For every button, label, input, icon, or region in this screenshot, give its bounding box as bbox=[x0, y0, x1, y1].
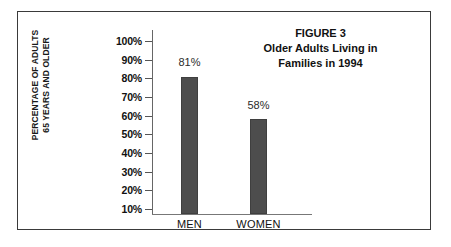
bar-men bbox=[181, 77, 198, 215]
y-tick-label-30: 30% bbox=[96, 166, 142, 178]
bar-women bbox=[250, 119, 267, 214]
category-label-men: MEN bbox=[155, 218, 225, 230]
y-tick-mark-90 bbox=[145, 60, 152, 61]
y-tick-mark-100 bbox=[145, 41, 152, 42]
figure-root: PERCENTAGE OF ADULTS 65 YEARS AND OLDER … bbox=[0, 0, 451, 247]
y-tick-mark-10 bbox=[145, 209, 152, 210]
y-tick-label-50: 50% bbox=[96, 128, 142, 140]
y-tick-label-60: 60% bbox=[96, 110, 142, 122]
y-tick-mark-30 bbox=[145, 172, 152, 173]
y-tick-mark-40 bbox=[145, 153, 152, 154]
y-axis-title-line-2: 65 YEARS AND OLDER bbox=[41, 10, 52, 160]
figure-title: FIGURE 3 Older Adults Living in Families… bbox=[223, 26, 418, 71]
y-tick-mark-20 bbox=[145, 190, 152, 191]
y-tick-mark-80 bbox=[145, 78, 152, 79]
y-tick-mark-70 bbox=[145, 97, 152, 98]
bar-value-men: 81% bbox=[166, 56, 214, 68]
chart-plot-area: PERCENTAGE OF ADULTS 65 YEARS AND OLDER … bbox=[18, 12, 432, 231]
y-tick-label-90: 90% bbox=[96, 54, 142, 66]
y-tick-mark-50 bbox=[145, 134, 152, 135]
y-axis-line bbox=[152, 30, 153, 214]
y-tick-label-10: 10% bbox=[96, 203, 142, 215]
figure-title-line-3: Families in 1994 bbox=[223, 56, 418, 71]
figure-title-line-1: FIGURE 3 bbox=[223, 26, 418, 41]
y-tick-label-100: 100% bbox=[96, 35, 142, 47]
figure-title-line-2: Older Adults Living in bbox=[223, 41, 418, 56]
category-label-women: WOMEN bbox=[224, 218, 294, 230]
x-axis-baseline bbox=[152, 214, 312, 215]
bar-value-women: 58% bbox=[235, 99, 283, 111]
y-axis-title: PERCENTAGE OF ADULTS 65 YEARS AND OLDER bbox=[30, 10, 60, 160]
y-tick-mark-60 bbox=[145, 116, 152, 117]
y-tick-label-20: 20% bbox=[96, 184, 142, 196]
y-tick-label-80: 80% bbox=[96, 72, 142, 84]
figure-border-frame: PERCENTAGE OF ADULTS 65 YEARS AND OLDER … bbox=[17, 11, 431, 230]
y-tick-label-70: 70% bbox=[96, 91, 142, 103]
y-tick-label-40: 40% bbox=[96, 147, 142, 159]
y-axis-title-line-1: PERCENTAGE OF ADULTS bbox=[30, 10, 41, 160]
